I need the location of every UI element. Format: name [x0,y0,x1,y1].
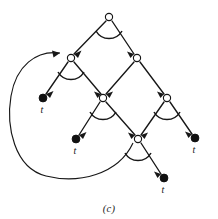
proof-tree-graphic: t t t t [0,0,218,219]
conjunction-arc-lower-right [154,112,180,120]
terminal-bottom[interactable] [160,174,168,182]
center-node[interactable] [99,94,106,101]
right-inner-node[interactable] [133,54,140,61]
root-node[interactable] [105,13,112,20]
conjunction-arc-left-inner [58,72,84,80]
edge-bottom-to-terminal [141,143,161,174]
bottom-node[interactable] [134,135,141,142]
terminal-bottom-label: t [162,184,165,195]
terminal-right[interactable] [191,134,199,142]
edge-right-inner-to-lower [140,62,164,94]
feedback-loop-edge [10,53,133,179]
open-nodes-group [67,13,170,142]
right-lower-node[interactable] [163,94,170,101]
terminal-right-label: t [193,144,196,155]
conjunction-arc-bottom [125,153,151,161]
arrowhead-root-to-left-inner [74,51,82,59]
terminal-center-left[interactable] [72,135,80,143]
figure-caption: (c) [0,203,218,214]
conjunction-arc-center [90,112,116,120]
edge-right-inner-to-center [106,62,134,94]
edge-root-to-left-inner [74,21,106,54]
conjunction-arc-root [96,31,122,39]
left-inner-node[interactable] [67,54,74,61]
terminal-center-left-label: t [74,145,77,156]
terminal-left-label: t [41,104,44,115]
figure-container: t t t t (c) [0,0,218,219]
feedback-arrowhead [52,51,60,58]
terminal-left[interactable] [39,94,47,102]
